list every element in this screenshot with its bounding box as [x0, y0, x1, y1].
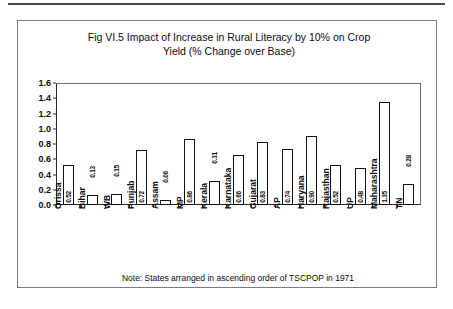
bar[interactable]: 0.86 — [184, 139, 195, 205]
category-slot: Bihar — [80, 209, 104, 271]
category-slot: Karnataka — [226, 209, 250, 271]
category-slot: Rajasthan — [324, 209, 348, 271]
y-axis-tick-label: 0.2 — [38, 185, 51, 195]
bar-value-label: 0.52 — [331, 191, 340, 203]
x-axis-category-label: WB — [102, 195, 112, 209]
y-axis-tick-label: 1.6 — [38, 78, 51, 88]
x-axis-category-label: MP — [175, 196, 185, 209]
bar-value-label: 0.66 — [234, 191, 243, 203]
bar[interactable]: 0.83 — [257, 142, 268, 205]
bar[interactable]: 0.13 — [87, 195, 98, 205]
chart-title: Fig VI.5 Impact of Increase in Rural Lit… — [48, 30, 410, 58]
plot-area: 0.00.20.40.60.81.01.21.41.6 0.520.130.15… — [56, 83, 421, 205]
y-axis-tick-label: 0.0 — [38, 200, 51, 210]
x-axis-category-label: UP — [345, 197, 355, 209]
y-axis-tick-label: 0.6 — [38, 154, 51, 164]
category-slot: AP — [275, 209, 299, 271]
bar[interactable]: 0.74 — [282, 149, 293, 205]
bar-value-label: 0.83 — [258, 191, 267, 203]
bar-value-label: 0.74 — [283, 191, 292, 203]
y-axis-tick-label: 1.0 — [38, 124, 51, 134]
bar[interactable]: 0.31 — [209, 181, 220, 205]
bar-value-label: 0.72 — [137, 191, 146, 203]
x-axis-category-label: Gujarat — [248, 179, 258, 209]
category-slot: WB — [105, 209, 129, 271]
category-slot: Orissa — [56, 209, 80, 271]
x-axis-category-label: Rajasthan — [321, 168, 331, 209]
category-slot: Maharashtra — [372, 209, 396, 271]
chart-footnote: Note: States arranged in ascending order… — [48, 273, 428, 283]
x-axis-category-label: Maharashtra — [369, 158, 379, 209]
bar-value-label: 1.35 — [380, 191, 389, 203]
bar-series: 0.520.130.150.720.060.860.310.660.830.74… — [56, 83, 421, 205]
bar[interactable]: 0.28 — [403, 184, 414, 205]
bar-slot: 0.28 — [397, 83, 421, 205]
bar-value-label: 0.06 — [161, 171, 170, 183]
bar-value-label: 0.90 — [307, 191, 316, 203]
x-axis-category-label: Punjab — [126, 181, 136, 209]
bar[interactable]: 0.15 — [111, 194, 122, 205]
bar[interactable]: 0.90 — [306, 136, 317, 205]
category-slot: TN — [397, 209, 421, 271]
y-axis-tick-label: 0.4 — [38, 170, 51, 180]
x-axis-category-labels: OrissaBiharWBPunjabAssamMPKeralaKarnatak… — [56, 209, 421, 271]
category-slot: Haryana — [299, 209, 323, 271]
x-axis-category-label: Bihar — [77, 187, 87, 209]
x-axis-category-label: AP — [272, 197, 282, 209]
x-axis-category-label: Orissa — [53, 183, 63, 209]
x-axis-category-label: Kerala — [199, 183, 209, 209]
category-slot: Kerala — [202, 209, 226, 271]
y-axis-tick-label: 1.4 — [38, 93, 51, 103]
chart-title-line-1: Fig VI.5 Impact of Increase in Rural Lit… — [48, 30, 410, 44]
bar[interactable]: 0.66 — [233, 155, 244, 205]
x-axis-category-label: Karnataka — [223, 168, 233, 209]
bar-value-label: 0.86 — [185, 191, 194, 203]
category-slot: MP — [178, 209, 202, 271]
y-axis-tick-label: 1.2 — [38, 109, 51, 119]
bar-value-label: 0.52 — [64, 191, 73, 203]
bar[interactable]: 0.06 — [160, 200, 171, 205]
x-axis-category-label: Haryana — [296, 175, 306, 209]
bar-value-label: 0.13 — [88, 166, 97, 178]
bar[interactable]: 1.35 — [379, 102, 390, 205]
figure-container: Fig VI.5 Impact of Increase in Rural Lit… — [17, 20, 437, 288]
bar-value-label: 0.15 — [112, 165, 121, 177]
category-slot: UP — [348, 209, 372, 271]
bar[interactable]: 0.72 — [136, 150, 147, 205]
bar[interactable]: 0.48 — [355, 168, 366, 205]
y-axis-tick-label: 0.8 — [38, 139, 51, 149]
bar-value-label: 0.48 — [356, 191, 365, 203]
category-slot: Assam — [153, 209, 177, 271]
bar[interactable]: 0.52 — [63, 165, 74, 205]
chart-title-line-2: Yield (% Change over Base) — [48, 44, 410, 58]
bar-value-label: 0.31 — [210, 152, 219, 164]
bar-value-label: 0.28 — [404, 155, 413, 167]
page-horizontal-rule — [8, 3, 445, 5]
category-slot: Punjab — [129, 209, 153, 271]
x-axis-category-label: TN — [394, 198, 404, 209]
x-axis-category-label: Assam — [150, 181, 160, 209]
category-slot: Gujarat — [251, 209, 275, 271]
bar[interactable]: 0.52 — [330, 165, 341, 205]
